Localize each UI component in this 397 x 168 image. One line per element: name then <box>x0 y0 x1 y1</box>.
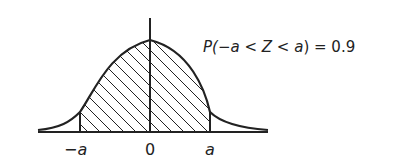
hatched-region <box>0 0 336 140</box>
eq-var-z: Z <box>262 38 272 56</box>
eq-value: 0.9 <box>331 38 355 56</box>
label-pos-a: a <box>205 140 215 159</box>
eq-suffix: ) = <box>303 38 331 56</box>
eq-lt2: < <box>272 38 294 56</box>
eq-prefix: P( <box>203 38 218 56</box>
eq-var-a1: a <box>230 38 239 56</box>
probability-equation: P(−a < Z < a) = 0.9 <box>203 38 355 56</box>
label-zero: 0 <box>145 140 155 159</box>
eq-var-a2: a <box>294 38 303 56</box>
eq-neg-sign: − <box>218 38 231 56</box>
label-neg-a: −a <box>64 140 87 159</box>
eq-lt1: < <box>240 38 262 56</box>
normal-curve-figure <box>0 0 397 168</box>
